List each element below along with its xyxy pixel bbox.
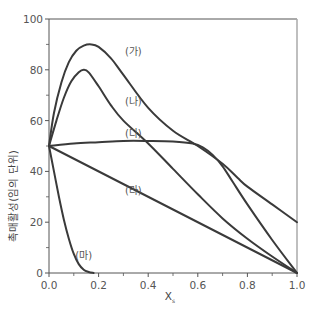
chart: 020406080100 0.00.20.40.60.81.0 (가)(나)(다… <box>0 0 312 318</box>
x-axis-title-main: X <box>165 290 172 302</box>
y-axis-title: 촉매활성(임의 단위) <box>7 150 19 242</box>
curve-label: (나) <box>125 96 142 107</box>
x-axis-title-subscript: s <box>172 297 175 304</box>
y-tick-label: 80 <box>30 64 43 76</box>
x-tick-label: 0.8 <box>239 279 256 291</box>
x-tick-label: 0.2 <box>90 279 107 291</box>
x-tick-label: 0.6 <box>189 279 206 291</box>
curve-labels: (가)(나)(다)(라)(마) <box>75 46 142 261</box>
curves <box>49 44 297 273</box>
y-tick-label: 20 <box>30 216 43 228</box>
x-tick-label: 0.4 <box>140 279 157 291</box>
curve-label: (가) <box>125 46 142 57</box>
y-tick-label: 60 <box>30 115 43 127</box>
y-tick-label: 0 <box>36 267 43 279</box>
x-axis-ticks: 0.00.20.40.60.81.0 <box>41 273 306 291</box>
x-tick-label: 1.0 <box>289 279 306 291</box>
y-tick-label: 100 <box>23 13 43 25</box>
curve-label: (다) <box>125 128 142 139</box>
y-tick-label: 40 <box>30 165 43 177</box>
curve-label: (라) <box>125 185 142 196</box>
curve-2 <box>49 70 297 273</box>
curve-label: (마) <box>75 250 92 261</box>
x-tick-label: 0.0 <box>41 279 58 291</box>
y-axis-ticks: 020406080100 <box>23 13 49 279</box>
x-axis-title: Xs <box>165 290 175 304</box>
